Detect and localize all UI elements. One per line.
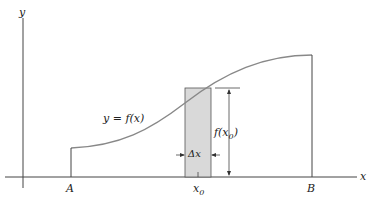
arrow-left-icon — [211, 153, 216, 157]
riemann-strip-diagram — [0, 0, 371, 200]
arrow-down-icon — [227, 171, 231, 176]
point-b-label: B — [307, 183, 315, 194]
dx-label: Δx — [188, 149, 201, 159]
x0-label: x0 — [193, 183, 204, 197]
point-a-label: A — [66, 183, 74, 194]
curve-label: y = f(x) — [103, 113, 144, 124]
arrow-up-icon — [227, 89, 231, 94]
x-axis-label: x — [360, 171, 366, 182]
arrow-right-icon — [180, 153, 185, 157]
y-axis-label: y — [19, 7, 25, 18]
strip-rectangle — [185, 88, 211, 177]
height-label: f(x0) — [214, 127, 238, 141]
